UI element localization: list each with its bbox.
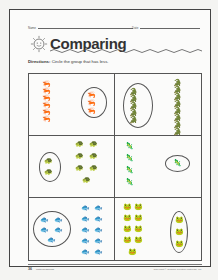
fish-icon: 🐟 — [94, 204, 103, 211]
turtle-icon: 🐢 — [75, 164, 84, 171]
alligator-icon: 🐊 — [173, 86, 182, 93]
page-number: 36 — [28, 267, 32, 271]
copyright-text: Copyright © Teacher Created Materials, I… — [153, 268, 202, 271]
directions: Directions: Circle the group that has le… — [28, 59, 109, 64]
alligator-icon: 🐊 — [129, 95, 138, 102]
alligator-icon: 🐊 — [129, 109, 138, 116]
answer-circle — [123, 83, 153, 128]
fish-icon: 🐟 — [94, 237, 103, 244]
turtle-icon: 🐢 — [89, 164, 98, 171]
frog-icon: 🐸 — [128, 248, 137, 255]
turtle-icon: 🐢 — [75, 140, 84, 147]
date-label: Date — [132, 26, 138, 30]
shrimp-icon: 🦐 — [42, 108, 51, 115]
alligator-icon: 🐊 — [129, 116, 138, 123]
alligator-icon: 🐊 — [173, 121, 182, 128]
frog-icon: 🐸 — [134, 214, 143, 221]
shrimp-icon: 🦐 — [42, 115, 51, 122]
panel-lizard[interactable]: 🦎 🦎 🦎 🦎 🦎 — [115, 136, 201, 198]
frog-icon: 🐸 — [123, 225, 132, 232]
turtle-icon: 🐢 — [89, 152, 98, 159]
fish-icon: 🐟 — [94, 248, 103, 255]
shrimp-icon: 🦐 — [87, 99, 96, 106]
panel-fish[interactable]: 🐟 🐟 🐟 🐟 🐟 🐟 🐟 🐟 🐟 🐟 🐟 🐟 🐟 🐟 🐟 — [29, 198, 115, 260]
name-field[interactable]: Name — [28, 26, 133, 30]
turtle-icon: 🐢 — [82, 176, 91, 183]
shrimp-icon: 🦐 — [87, 91, 96, 98]
lizard-icon: 🦎 — [125, 154, 134, 161]
sun-icon — [30, 35, 48, 53]
name-label: Name — [28, 26, 36, 30]
lizard-icon: 🦎 — [125, 142, 134, 149]
panel-turtle[interactable]: 🐢 🐢 🐢 🐢 🐢 🐢 🐢 🐢 🐢 — [29, 136, 115, 198]
fish-icon: 🐟 — [47, 236, 56, 243]
fish-icon: 🐟 — [81, 226, 90, 233]
fish-icon: 🐟 — [54, 226, 63, 233]
directions-label: Directions: — [28, 59, 50, 64]
shrimp-icon: 🦐 — [42, 87, 51, 94]
turtle-icon: 🐢 — [89, 140, 98, 147]
alligator-icon: 🐊 — [173, 128, 182, 135]
frog-icon: 🐸 — [123, 236, 132, 243]
fish-icon: 🐟 — [94, 226, 103, 233]
alligator-icon: 🐊 — [173, 79, 182, 86]
frog-icon: 🐸 — [175, 228, 184, 235]
frog-icon: 🐸 — [134, 203, 143, 210]
shrimp-icon: 🦐 — [42, 94, 51, 101]
fish-icon: 🐟 — [81, 215, 90, 222]
alligator-icon: 🐊 — [173, 114, 182, 121]
book-title: Math Readiness — [36, 268, 54, 271]
comparison-grid: 🦐 🦐 🦐 🦐 🦐 🦐 🦐 🦐 🦐 🐊 🐊 🐊 🐊 🐊 🐊 🐊 🐊 🐊 🐊 — [28, 73, 202, 261]
frog-icon: 🐸 — [175, 216, 184, 223]
turtle-icon: 🐢 — [44, 157, 53, 164]
frog-icon: 🐸 — [134, 225, 143, 232]
fish-icon: 🐟 — [54, 216, 63, 223]
alligator-icon: 🐊 — [173, 100, 182, 107]
page-footer: 36 Math Readiness Copyright © Teacher Cr… — [28, 264, 202, 267]
lizard-icon: 🦎 — [125, 166, 134, 173]
fish-icon: 🐟 — [40, 226, 49, 233]
fish-icon: 🐟 — [94, 215, 103, 222]
fish-icon: 🐟 — [81, 204, 90, 211]
alligator-icon: 🐊 — [129, 102, 138, 109]
shrimp-icon: 🦐 — [87, 107, 96, 114]
alligator-icon: 🐊 — [173, 107, 182, 114]
frog-icon: 🐸 — [123, 203, 132, 210]
shrimp-icon: 🦐 — [42, 80, 51, 87]
alligator-icon: 🐊 — [129, 88, 138, 95]
fish-icon: 🐟 — [81, 248, 90, 255]
date-field[interactable]: Date — [132, 26, 200, 30]
lizard-icon: 🦎 — [125, 178, 134, 185]
frog-icon: 🐸 — [134, 236, 143, 243]
turtle-icon: 🐢 — [75, 152, 84, 159]
fish-icon: 🐟 — [40, 216, 49, 223]
directions-text: Circle the group that has less. — [50, 59, 108, 64]
frog-icon: 🐸 — [123, 214, 132, 221]
panel-shrimp[interactable]: 🦐 🦐 🦐 🦐 🦐 🦐 🦐 🦐 🦐 — [29, 74, 115, 136]
panel-frog[interactable]: 🐸 🐸 🐸 🐸 🐸 🐸 🐸 🐸 🐸 🐸 🐸 🐸 — [115, 198, 201, 260]
fish-icon: 🐟 — [81, 237, 90, 244]
worksheet-page: Name Date Comparing Directions: Circle t… — [9, 9, 211, 267]
frog-icon: 🐸 — [175, 240, 184, 247]
shrimp-icon: 🦐 — [42, 101, 51, 108]
lizard-icon: 🦎 — [173, 159, 182, 166]
turtle-icon: 🐢 — [44, 168, 53, 175]
alligator-icon: 🐊 — [173, 93, 182, 100]
wave-underline — [50, 48, 205, 54]
panel-alligator[interactable]: 🐊 🐊 🐊 🐊 🐊 🐊 🐊 🐊 🐊 🐊 🐊 🐊 🐊 — [115, 74, 201, 136]
